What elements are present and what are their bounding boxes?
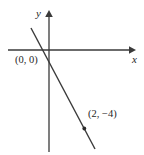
origin-point-label: (0, 0) — [15, 55, 38, 66]
coordinate-graph-figure: y x (0, 0) (2, −4) — [0, 0, 144, 155]
point-label: (2, −4) — [88, 109, 117, 120]
arrow-up-icon — [45, 10, 53, 17]
y-axis-label: y — [36, 8, 41, 19]
x-axis-label: x — [132, 54, 137, 65]
graph-canvas — [0, 0, 144, 155]
plotted-line — [31, 28, 95, 149]
point-dot-icon — [82, 127, 86, 131]
